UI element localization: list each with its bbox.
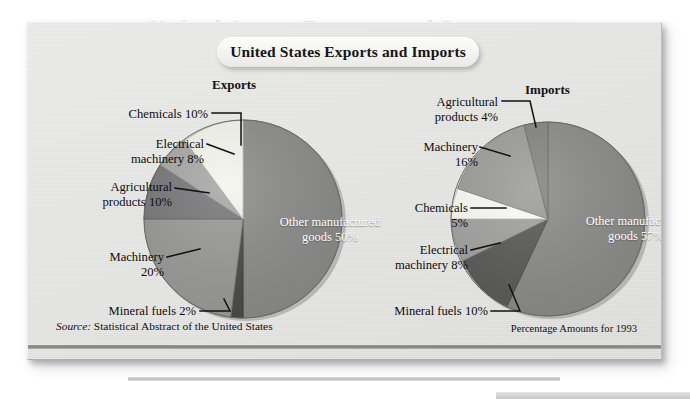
callout-imports-machinery: Machinery 16% (358, 140, 478, 170)
callout-exports-agricultural-products: Agricultural products 10% (27, 180, 172, 210)
footer-rule (28, 345, 661, 349)
chart-heading-exports: Exports (212, 77, 256, 93)
page-title: United States Exports and Imports (230, 43, 466, 61)
title-pill: United States Exports and Imports (217, 37, 479, 67)
chart-heading-imports: Imports (525, 82, 570, 98)
scan-artifact-strip-top (128, 377, 560, 381)
callout-imports-mineral-fuels: Mineral fuels 10% (328, 304, 488, 319)
callout-exports-mineral-fuels: Mineral fuels 2% (46, 304, 196, 319)
scan-artifact-strip-bottom (496, 392, 690, 399)
footer-source: Source: Statistical Abstract of the Unit… (56, 320, 273, 332)
footer-source-label: Source: (56, 320, 91, 332)
footer-period-note: Percentage Amounts for 1993 (511, 323, 637, 334)
callout-imports-agricultural-products: Agricultural products 4% (368, 95, 498, 125)
callout-imports-chemicals: Chemicals 5% (350, 201, 468, 231)
footer-source-text: Statistical Abstract of the United State… (91, 320, 273, 332)
callout-exports-chemicals: Chemicals 10% (68, 107, 208, 122)
callout-imports-electrical-machinery: Electrical machinery 8% (334, 243, 468, 273)
figure-panel: United States Exports and Imports Export… (27, 22, 662, 360)
callout-exports-electrical-machinery: Electrical machinery 8% (54, 137, 204, 167)
callout-exports-machinery: Machinery 20% (34, 250, 164, 280)
